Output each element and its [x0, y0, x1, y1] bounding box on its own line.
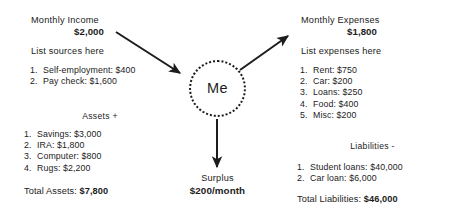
surplus-block: Surplus $200/month: [160, 172, 275, 197]
list-item: 4. Food: $400: [300, 99, 363, 110]
list-item: 2. IRA: $1,800: [24, 140, 102, 151]
assets-total-label: Total Assets:: [24, 186, 77, 196]
expenses-list: 1. Rent: $750 2. Car: $200 3. Loans: $25…: [300, 65, 363, 121]
assets-title: Assets +: [30, 111, 170, 122]
income-amount: $2,000: [31, 26, 147, 38]
liabilities-total-label: Total Liabilities:: [297, 194, 361, 204]
assets-total-value: $7,800: [80, 186, 109, 196]
list-item: 2. Car: $200: [300, 76, 363, 87]
liabilities-list: 1. Student loans: $40,000 2. Car loan: $…: [297, 162, 403, 184]
me-to-expenses-arrow: [240, 36, 288, 70]
list-item: 2. Pay check: $1,600: [30, 76, 136, 87]
list-item: 2. Car loan: $6,000: [297, 173, 403, 184]
assets-total: Total Assets: $7,800: [24, 185, 108, 197]
me-node[interactable]: Me: [189, 60, 246, 117]
expenses-amount: $1,800: [301, 26, 423, 38]
list-item: 4. Rugs: $2,200: [24, 163, 102, 174]
surplus-amount: $200/month: [160, 184, 275, 197]
me-node-label: Me: [207, 81, 228, 97]
liabilities-total: Total Liabilities: $46,000: [297, 193, 398, 205]
list-item: 3. Computer: $800: [24, 151, 102, 162]
income-title: Monthly Income: [31, 14, 99, 26]
list-item: 1. Self-employment: $400: [30, 65, 136, 76]
list-item: 1. Rent: $750: [300, 65, 363, 76]
liabilities-total-value: $46,000: [364, 194, 398, 204]
list-item: 3. Loans: $250: [300, 87, 363, 98]
finance-diagram-canvas: Monthly Income $2,000 List sources here …: [0, 0, 450, 224]
income-list: 1. Self-employment: $400 2. Pay check: $…: [30, 65, 136, 87]
list-item: 1. Savings: $3,000: [24, 129, 102, 140]
surplus-label: Surplus: [160, 172, 275, 184]
expenses-title: Monthly Expenses: [301, 14, 380, 26]
assets-list: 1. Savings: $3,000 2. IRA: $1,800 3. Com…: [24, 129, 102, 174]
liabilities-title: Liabilities -: [300, 141, 445, 152]
list-item: 1. Student loans: $40,000: [297, 162, 403, 173]
list-item: 5. Misc: $200: [300, 110, 363, 121]
expenses-prompt: List expenses here: [301, 45, 381, 57]
income-prompt: List sources here: [31, 45, 104, 57]
